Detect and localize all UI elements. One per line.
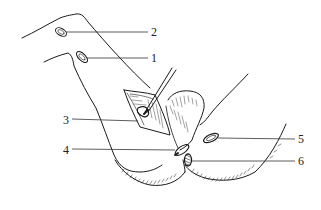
right-buttock-lower [185, 124, 286, 180]
label-2: 2 [151, 26, 157, 38]
left-buttock-lower [115, 160, 185, 185]
opening-2 [54, 26, 68, 38]
label-1: 1 [151, 52, 157, 64]
illustration-drawing [0, 0, 321, 210]
right-contour [200, 74, 248, 125]
leader-line-4 [72, 149, 175, 150]
opening-5 [202, 131, 219, 144]
label-6: 6 [298, 155, 304, 167]
leader-line-3 [72, 119, 138, 121]
label-4: 4 [63, 144, 69, 156]
anatomical-figure: 2 1 3 4 5 6 [0, 0, 321, 210]
opening-1 [75, 50, 90, 65]
probe-instrument [145, 68, 172, 112]
label-3: 3 [63, 114, 69, 126]
label-5: 5 [298, 133, 304, 145]
buttock-mound [168, 91, 204, 150]
upper-body-contour [22, 14, 150, 88]
leader-line-5 [218, 138, 295, 139]
